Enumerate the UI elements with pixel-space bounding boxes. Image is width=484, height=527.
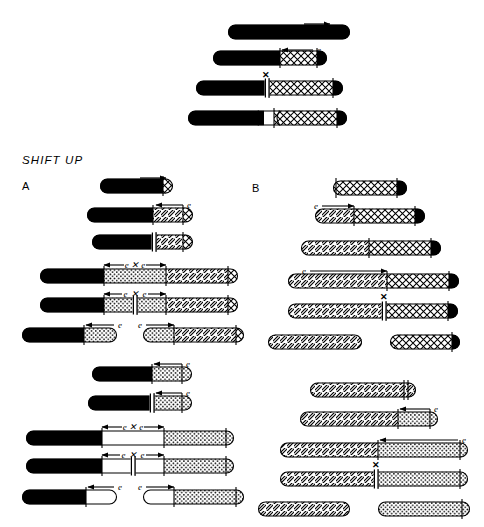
- chromosome-body: [315, 209, 425, 224]
- chromosome-segment: [258, 502, 350, 517]
- chromosome-body: [143, 328, 244, 343]
- break-marker: [265, 79, 270, 98]
- chromosome-row: [196, 78, 343, 98]
- e-crossover-label: e ✕ e: [125, 260, 146, 270]
- break-marker: [150, 394, 155, 413]
- chromosome-segment: [387, 274, 449, 289]
- chromosome-row: [92, 232, 193, 252]
- chromosome-segment: [86, 490, 117, 505]
- chromosome-segment: [88, 396, 150, 411]
- chromosome-segment: [174, 328, 236, 343]
- break-marker: [382, 302, 387, 321]
- chromosome-body: [100, 179, 173, 194]
- column-a-label: A: [22, 180, 30, 192]
- chromosome-body: [87, 208, 193, 223]
- chromosome-segment: [213, 51, 280, 66]
- chromosome-row: [301, 238, 441, 258]
- chromosome-segment: [378, 472, 460, 487]
- e-crossover-label: e ✕ e: [121, 450, 144, 460]
- chromosome-body: [333, 181, 407, 196]
- chromosome-segment: [92, 235, 152, 250]
- shift-up-title: SHIFT UP: [22, 154, 83, 166]
- chromosome-body: [40, 298, 238, 313]
- chromosome-segment: [188, 111, 264, 126]
- e-label: e: [118, 320, 122, 330]
- break-marker: [374, 470, 379, 489]
- chromosome-body: [26, 459, 234, 474]
- chromosome-row: [310, 380, 416, 400]
- chromosome-segment: [22, 328, 84, 343]
- chromosome-body: [258, 502, 350, 517]
- chromosome-body: [92, 367, 192, 382]
- chromosome-row: [88, 393, 192, 413]
- chromosome-segment: [87, 208, 153, 223]
- e-label: e: [138, 482, 142, 492]
- e-label: e: [434, 404, 438, 414]
- chromosome-body: [22, 328, 117, 343]
- e-label: e: [187, 200, 191, 210]
- chromosome-body: [143, 490, 244, 505]
- chromosome-body: [228, 25, 350, 40]
- chromosome-segment: [280, 472, 374, 487]
- chromosome-segment: [92, 367, 152, 382]
- chromosome-row: [300, 409, 438, 429]
- chromosome-body: [88, 396, 192, 411]
- chromosome-segment: [135, 459, 164, 474]
- chromosome-segment: [166, 269, 228, 284]
- chromosome-segment: [40, 269, 104, 284]
- chromosome-segment: [369, 241, 431, 256]
- chromosome-body: [92, 235, 193, 250]
- chromosome-row: [92, 364, 192, 384]
- chromosome-segment: [333, 181, 397, 196]
- chromosome-segment: [196, 81, 265, 96]
- chromosome-segment: [26, 431, 102, 446]
- chromosome-segment: [386, 304, 448, 319]
- e-label: e: [186, 359, 190, 369]
- chromosome-segment: [354, 209, 415, 224]
- e-label: e: [302, 266, 306, 276]
- chromosome-segment: [378, 502, 462, 517]
- chromosome-segment: [288, 304, 382, 319]
- e-label: e: [186, 388, 190, 398]
- chromosome-row: [288, 271, 459, 291]
- chromosome-segment: [137, 298, 166, 313]
- chromosome-segment: [280, 443, 378, 458]
- chromosome-segment: [300, 412, 398, 427]
- chromosome-segment: [26, 459, 102, 474]
- chromosome-row: [213, 48, 327, 68]
- chromosome-segment: [378, 443, 460, 458]
- chromosome-body: [301, 241, 441, 256]
- chromosome-body: [300, 412, 438, 427]
- chromosome-segment: [269, 81, 333, 96]
- chromosome-body: [213, 51, 327, 66]
- chromosome-segment: [143, 328, 174, 343]
- chromosome-body: [390, 335, 460, 350]
- chromosome-row: [87, 205, 193, 225]
- chromosome-row: [100, 176, 173, 196]
- chromosome-segment: [390, 335, 452, 350]
- chromosome-shift-diagram: e✕ee ✕ ee ✕ eeeeee ✕ ee ✕ eeeee✕ee✕ SHIF…: [0, 0, 484, 527]
- chromosome-segment: [100, 179, 168, 194]
- crossover-x-icon: ✕: [262, 70, 270, 80]
- chromosome-body: [378, 502, 470, 517]
- chromosome-segment: [22, 490, 86, 505]
- chromosome-row: [228, 25, 350, 40]
- chromosome-segment: [228, 25, 350, 40]
- chromosome-segment: [152, 367, 182, 382]
- e-label: e: [118, 482, 122, 492]
- chromosome-row: [288, 301, 458, 321]
- chromosome-body: [288, 274, 459, 289]
- e-crossover-label: e ✕ e: [123, 422, 144, 432]
- chromosome-segment: [398, 412, 430, 427]
- chromosome-segment: [102, 431, 164, 446]
- chromosome-body: [310, 383, 416, 398]
- e-label: e: [138, 320, 142, 330]
- chromosome-body: [26, 431, 234, 446]
- chromosome-segment: [104, 298, 133, 313]
- chromosome-segment: [102, 459, 131, 474]
- crossover-x-icon: ✕: [380, 292, 388, 302]
- chromosome-segment: [104, 269, 166, 284]
- chromosome-body: [22, 490, 117, 505]
- chromosome-segment: [268, 335, 362, 350]
- e-label: e: [462, 435, 466, 445]
